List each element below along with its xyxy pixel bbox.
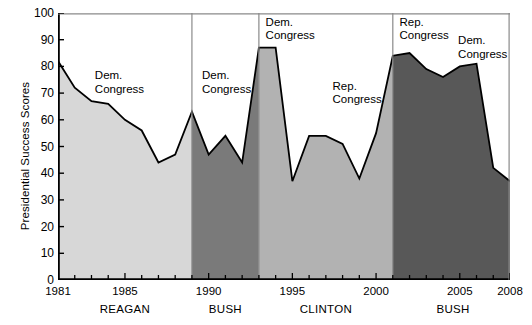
y-axis-tick-label: 90 (20, 34, 54, 46)
congress-annotation-line2: Congress (266, 29, 315, 43)
y-axis-tick-label: 10 (20, 247, 54, 259)
congress-annotation: Rep.Congress (333, 80, 382, 107)
y-axis-tick-label: 100 (20, 7, 54, 19)
plot-area (58, 13, 510, 280)
congress-annotation-line1: Rep. (400, 16, 449, 30)
y-axis-tick-labels: 1009080706050403020100 (14, 0, 54, 325)
congress-annotation-line2: Congress (400, 29, 449, 43)
y-axis-tick-label: 80 (20, 60, 54, 72)
congress-annotation-line2: Congress (202, 83, 251, 97)
congress-annotation: Dem.Congress (202, 69, 251, 96)
president-label-clinton-2: CLINTON (281, 303, 371, 315)
y-axis-tick-label: 20 (20, 221, 54, 233)
congress-annotation-line1: Dem. (95, 69, 144, 83)
y-axis-tick-label: 30 (20, 194, 54, 206)
x-axis-tick-label: 1981 (38, 285, 78, 297)
congress-annotation-line2: Congress (458, 48, 507, 62)
x-axis-tick-label: 2005 (440, 285, 480, 297)
congress-annotation: Dem.Congress (266, 16, 315, 43)
congress-annotation: Rep.Congress (400, 16, 449, 43)
chart-container: Presidential Success Scores 100908070605… (0, 0, 532, 325)
y-axis-tick-label: 60 (20, 114, 54, 126)
y-axis-tick-label: 50 (20, 141, 54, 153)
x-axis-tick-label: 2008 (490, 285, 530, 297)
congress-annotation-line1: Dem. (202, 69, 251, 83)
congress-annotation-line2: Congress (95, 83, 144, 97)
congress-annotation-line1: Rep. (333, 80, 382, 94)
president-label-reagan-0: REAGAN (80, 303, 170, 315)
y-axis-tick-label: 70 (20, 87, 54, 99)
congress-annotation-line1: Dem. (458, 34, 507, 48)
president-label-bush-3: BUSH (408, 303, 498, 315)
congress-annotation: Dem.Congress (458, 34, 507, 61)
congress-annotation: Dem.Congress (95, 69, 144, 96)
x-axis-tick-label: 2000 (356, 285, 396, 297)
y-axis-tick-label: 40 (20, 167, 54, 179)
area-chart-svg (58, 13, 510, 280)
congress-annotation-line1: Dem. (266, 16, 315, 30)
congress-annotation-line2: Congress (333, 93, 382, 107)
x-axis-tick-label: 1990 (189, 285, 229, 297)
x-axis-tick-label: 1995 (272, 285, 312, 297)
x-axis-tick-label: 1985 (105, 285, 145, 297)
president-label-bush-1: BUSH (180, 303, 270, 315)
